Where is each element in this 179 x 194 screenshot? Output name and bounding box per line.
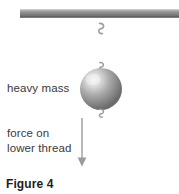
lower-hook-icon: [99, 109, 103, 117]
upper-hook-icon: [99, 23, 104, 33]
figure-diagram: [0, 0, 179, 194]
heavy-mass-label: heavy mass: [7, 81, 69, 96]
heavy-mass-sphere: [80, 68, 122, 110]
figure-container: heavy mass force onlower thread Figure 4: [0, 0, 179, 194]
force-on-lower-thread-label: force onlower thread: [7, 126, 71, 155]
force-label-line-1: force on: [7, 127, 49, 139]
force-arrow: [78, 118, 87, 167]
ceiling-support-bar: [20, 10, 179, 18]
figure-caption: Figure 4: [6, 177, 53, 191]
force-label-line-2: lower thread: [7, 142, 71, 154]
